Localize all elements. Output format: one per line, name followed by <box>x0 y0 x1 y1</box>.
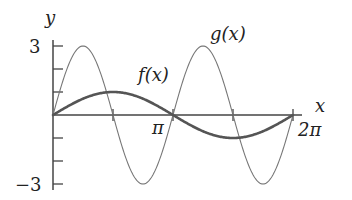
x-axis-label: x <box>315 95 325 116</box>
y-min-label: −3 <box>15 174 42 195</box>
function-plot: y x 3 −3 π 2π f(x) g(x) <box>0 0 352 200</box>
x-two-pi-label: 2π <box>297 119 322 140</box>
y-max-label: 3 <box>29 36 40 57</box>
axes <box>53 40 302 190</box>
y-axis-label: y <box>44 7 56 28</box>
x-pi-label: π <box>151 117 165 138</box>
g-series-label: g(x) <box>210 23 246 44</box>
f-series-label: f(x) <box>136 64 169 85</box>
